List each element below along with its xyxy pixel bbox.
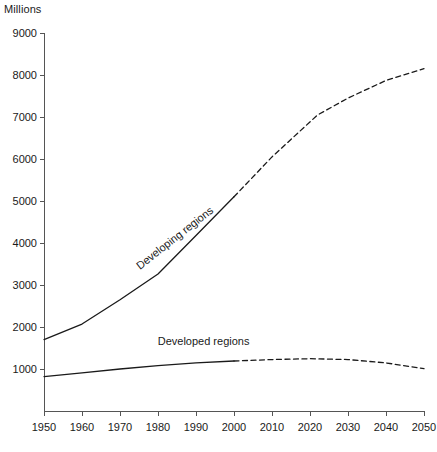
x-tick-label: 2010 [260,421,284,433]
x-tick-label: 2000 [222,421,246,433]
series-line-historical-1 [44,361,234,377]
x-tick-label: 2020 [298,421,322,433]
y-tick-label: 5000 [13,195,37,207]
series-label-1: Developed regions [158,335,250,347]
x-tick-label: 2040 [374,421,398,433]
x-tick-label: 1970 [108,421,132,433]
series-label-group: Developing regionsDeveloped regions [134,204,250,348]
y-tick-label: 6000 [13,153,37,165]
y-tick-label: 8000 [13,69,37,81]
y-tick-label: 1000 [13,363,37,375]
x-tick-label: 2030 [336,421,360,433]
x-axis: 1950196019701980199020002010202020302040… [32,411,436,433]
series-group [44,69,424,377]
series-line-projected-0 [234,69,424,197]
y-tick-group: 100020003000400050006000700080009000 [13,27,44,375]
y-tick-label: 7000 [13,111,37,123]
y-tick-label: 2000 [13,321,37,333]
x-tick-label: 1980 [146,421,170,433]
population-line-chart: Millions 1000200030004000500060007000800… [0,0,437,452]
x-tick-label: 2050 [412,421,436,433]
x-tick-label: 1960 [70,421,94,433]
y-tick-label: 4000 [13,237,37,249]
y-tick-label: 9000 [13,27,37,39]
x-tick-group: 1950196019701980199020002010202020302040… [32,411,436,433]
series-label-0: Developing regions [134,204,216,272]
series-line-projected-1 [234,359,424,369]
y-tick-label: 3000 [13,279,37,291]
x-tick-label: 1950 [32,421,56,433]
x-tick-label: 1990 [184,421,208,433]
y-axis: 100020003000400050006000700080009000 [13,27,44,411]
chart-plot-area: 100020003000400050006000700080009000 195… [0,0,437,452]
